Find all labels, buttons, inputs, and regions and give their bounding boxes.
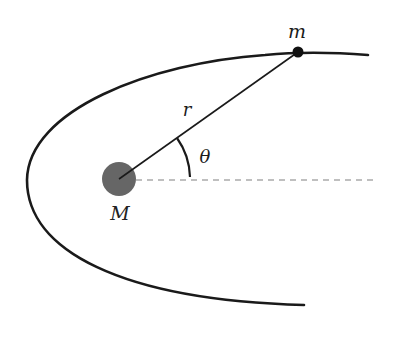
orbit-diagram: m r θ M (0, 0, 401, 340)
label-radius: r (183, 101, 192, 119)
orbiting-mass (293, 47, 304, 58)
label-angle-theta: θ (200, 148, 211, 166)
label-small-mass: m (288, 22, 306, 41)
orbit-diagram-canvas (0, 0, 401, 340)
angle-arc (177, 138, 190, 177)
label-large-mass: M (110, 204, 129, 223)
orbit-path (27, 53, 368, 305)
